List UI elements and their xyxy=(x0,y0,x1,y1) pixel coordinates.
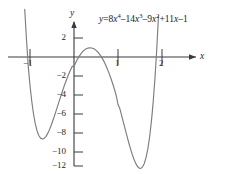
y-tick-label-neg6: −6 xyxy=(48,109,66,118)
y-tick-label-neg4: −4 xyxy=(48,90,66,99)
plot-area xyxy=(0,0,230,174)
x-tick-label-2: 2 xyxy=(159,59,164,68)
y-axis-label: y xyxy=(70,9,74,19)
y-axis xyxy=(71,21,76,166)
equation-term5-const: 1 xyxy=(183,14,188,24)
chart-figure: 2 −2 −4 −6 −8 −10 −12 −1 1 2 y x y=8x4–1… xyxy=(0,0,230,174)
y-tick-label-neg12: −12 xyxy=(43,161,66,170)
curve-quartic xyxy=(25,9,159,168)
equation-annotation: y=8x4–14x3–9x2+11x–1 xyxy=(99,15,188,25)
equation-term2-coef: 14 xyxy=(126,14,136,24)
x-axis-label: x xyxy=(200,52,204,62)
y-tick-label-neg8: −8 xyxy=(48,128,66,137)
y-tick-label-neg2: −2 xyxy=(48,71,66,80)
y-tick-label-neg10: −10 xyxy=(43,147,66,156)
x-tick-label-neg1: −1 xyxy=(23,59,33,68)
equation-term4-coef: 11 xyxy=(165,14,174,24)
x-tick-label-1: 1 xyxy=(115,59,120,68)
y-tick-label-2: 2 xyxy=(48,33,66,42)
